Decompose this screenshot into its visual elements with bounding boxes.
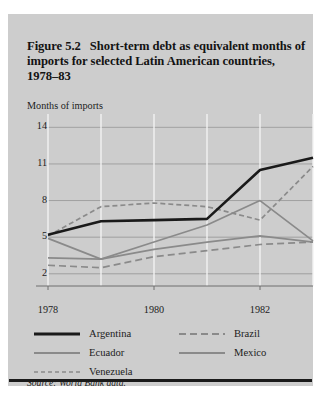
legend-swatch-venezuela	[34, 367, 80, 377]
bottom-rule	[9, 379, 312, 382]
x-tick-label: 1978	[28, 304, 68, 315]
figure-number: Figure 5.2	[27, 39, 81, 53]
legend-swatch-mexico	[179, 348, 225, 358]
legend-item-ecuador: Ecuador	[34, 343, 124, 362]
figure-panel: Figure 5.2Short-term debt as equivalent …	[8, 14, 313, 386]
series-line-argentina	[48, 158, 313, 235]
y-tick-label: 5	[27, 230, 47, 241]
chart-legend: Argentina Brazil Ecuador Mexico Venezuel…	[27, 324, 309, 381]
legend-label-ecuador: Ecuador	[89, 347, 124, 358]
legend-label-brazil: Brazil	[234, 328, 260, 339]
chart-svg	[27, 114, 315, 302]
legend-swatch-ecuador	[34, 348, 80, 358]
legend-swatch-brazil	[179, 329, 225, 339]
legend-label-argentina: Argentina	[89, 328, 131, 339]
x-tick-label: 1980	[134, 304, 174, 315]
y-tick-label: 8	[27, 194, 47, 205]
legend-row: Ecuador Mexico	[27, 343, 309, 362]
legend-item-argentina: Argentina	[34, 324, 131, 343]
y-axis-title: Months of imports	[27, 100, 103, 111]
series-line-mexico	[48, 236, 313, 259]
y-tick-label: 2	[27, 267, 47, 278]
legend-item-brazil: Brazil	[179, 324, 260, 343]
series-line-ecuador	[48, 201, 313, 260]
legend-row: Argentina Brazil	[27, 324, 309, 343]
legend-label-venezuela: Venezuela	[89, 366, 133, 377]
y-tick-label: 11	[27, 157, 47, 168]
legend-swatch-argentina	[34, 329, 80, 339]
x-tick-label: 1982	[240, 304, 280, 315]
y-tick-label: 14	[27, 120, 47, 131]
legend-item-mexico: Mexico	[179, 343, 266, 362]
chart-plot-area: 2581114197819801982	[27, 114, 315, 302]
figure-title: Figure 5.2Short-term debt as equivalent …	[27, 39, 308, 85]
legend-label-mexico: Mexico	[234, 347, 266, 358]
